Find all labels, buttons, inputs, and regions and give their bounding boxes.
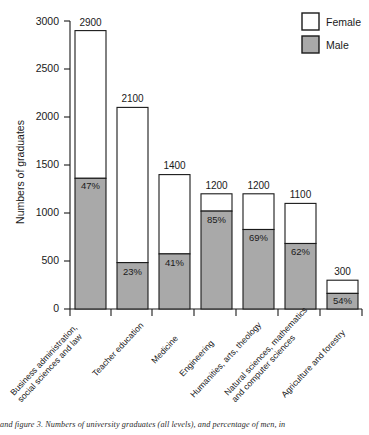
- bar-male-segment: [75, 178, 106, 309]
- legend: Female Male: [302, 13, 361, 53]
- x-axis-category-labels: Business administration, social sciences…: [8, 305, 347, 404]
- bar-group-humanities-arts-theology: 1200 69%: [243, 180, 274, 309]
- bar-female-segment: [285, 203, 316, 243]
- bar-percent-label: 85%: [207, 214, 227, 225]
- bar-percent-label: 54%: [333, 295, 353, 306]
- bar-percent-label: 62%: [291, 246, 311, 257]
- bar-female-segment: [117, 107, 148, 262]
- y-tick-label-2000: 2000: [36, 110, 60, 122]
- y-tick-label-3000: 3000: [36, 15, 60, 27]
- bar-chart-canvas: Numbers of graduates 3000 2500 2000 1500…: [0, 0, 369, 435]
- bar-total-label: 2900: [79, 17, 102, 28]
- bar-total-label: 1100: [290, 189, 312, 200]
- y-tick-label-500: 500: [41, 254, 59, 266]
- y-axis-title: Numbers of graduates: [14, 120, 26, 224]
- cat-label-business-administration-line1: Business administration,: [8, 322, 79, 397]
- bar-percent-label: 69%: [249, 232, 269, 243]
- legend-swatch-female: [302, 13, 319, 30]
- bar-female-segment: [75, 31, 106, 179]
- bar-percent-label: 41%: [165, 257, 185, 268]
- chart-figure: Numbers of graduates 3000 2500 2000 1500…: [0, 0, 369, 435]
- bar-group-teacher-education: 2100 23%: [117, 93, 148, 309]
- bar-female-segment: [201, 194, 232, 211]
- bar-group-natural-sciences: 1100 62%: [285, 189, 316, 309]
- bar-total-label: 1400: [163, 160, 186, 171]
- bar-male-segment: [201, 211, 232, 309]
- cat-label-teacher-education: Teacher education: [90, 320, 145, 378]
- legend-label-male: Male: [326, 39, 349, 51]
- bar-female-segment: [327, 280, 358, 293]
- figure-caption: and figure 3. Numbers of university grad…: [0, 420, 369, 429]
- legend-swatch-male: [302, 36, 319, 53]
- bar-group-business-administration: 2900 47%: [75, 17, 106, 309]
- y-tick-label-2500: 2500: [36, 62, 60, 74]
- y-tick-label-1500: 1500: [36, 158, 60, 170]
- bar-group-agriculture-forestry: 300 54%: [327, 266, 358, 309]
- legend-label-female: Female: [326, 16, 361, 28]
- bar-female-segment: [159, 175, 190, 254]
- bar-percent-label: 47%: [81, 180, 101, 191]
- y-tick-label-1000: 1000: [36, 206, 60, 218]
- bar-percent-label: 23%: [123, 266, 143, 277]
- y-tick-label-0: 0: [53, 302, 59, 314]
- bar-total-label: 2100: [121, 93, 144, 104]
- bar-group-medicine: 1400 41%: [159, 160, 190, 309]
- bar-total-label: 300: [334, 266, 351, 277]
- bar-total-label: 1200: [205, 180, 228, 191]
- bar-total-label: 1200: [247, 180, 270, 191]
- cat-label-business-administration-line2: social sciences and law: [15, 331, 84, 404]
- cat-label-medicine: Medicine: [149, 333, 180, 365]
- bar-female-segment: [243, 194, 274, 230]
- bar-group-engineering: 1200 85%: [201, 180, 232, 309]
